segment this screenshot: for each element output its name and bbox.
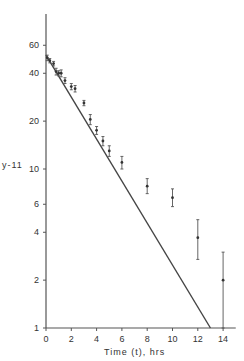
y-tick-label: 40 xyxy=(29,68,39,78)
data-point xyxy=(95,127,98,135)
x-tick-label: 14 xyxy=(218,334,228,344)
data-point xyxy=(222,252,225,328)
data-point xyxy=(101,137,104,146)
data-point xyxy=(146,179,149,194)
fit-line xyxy=(46,55,210,328)
x-tick-label: 2 xyxy=(69,334,74,344)
point-marker xyxy=(52,62,55,65)
point-marker xyxy=(70,85,73,88)
axes xyxy=(46,14,236,328)
data-point xyxy=(63,78,66,84)
point-marker xyxy=(64,79,67,82)
semi-log-chart: 02468101214124610204060 y-11 Time (t), h… xyxy=(0,0,244,361)
x-tick-label: 10 xyxy=(167,334,177,344)
point-marker xyxy=(146,185,149,188)
point-marker xyxy=(95,129,98,132)
y-tick-label: 1 xyxy=(34,323,39,333)
data-point xyxy=(70,83,73,89)
y-tick-label: 60 xyxy=(29,40,39,50)
y-tick-label: 10 xyxy=(29,164,39,174)
y-tick-label: 4 xyxy=(34,227,39,237)
x-tick-label: 8 xyxy=(145,334,150,344)
point-marker xyxy=(46,56,49,59)
data-point xyxy=(89,115,92,125)
point-marker xyxy=(222,279,225,282)
point-marker xyxy=(57,72,60,75)
y-tick-label: 2 xyxy=(34,275,39,285)
data-point xyxy=(82,100,85,105)
y-axis-label: y-11 xyxy=(2,160,23,170)
point-marker xyxy=(121,161,124,164)
point-marker xyxy=(83,102,86,105)
point-marker xyxy=(89,118,92,121)
data-point xyxy=(171,189,174,207)
point-marker xyxy=(196,236,199,239)
x-tick-label: 6 xyxy=(119,334,124,344)
point-marker xyxy=(48,59,51,62)
data-point xyxy=(74,86,77,92)
point-marker xyxy=(108,149,111,152)
y-tick-label: 6 xyxy=(34,199,39,209)
point-marker xyxy=(102,140,105,143)
data-points xyxy=(46,55,225,328)
x-tick-label: 4 xyxy=(94,334,99,344)
point-marker xyxy=(55,70,58,73)
x-axis-label: Time (t), hrs xyxy=(104,347,165,357)
fitted-line xyxy=(46,55,210,328)
point-marker xyxy=(60,72,63,75)
x-tick-label: 12 xyxy=(193,334,203,344)
point-marker xyxy=(74,87,77,90)
data-point xyxy=(120,156,123,169)
x-tick-label: 0 xyxy=(43,334,48,344)
data-point xyxy=(196,220,199,260)
data-point xyxy=(108,146,111,157)
point-marker xyxy=(171,196,174,199)
y-tick-label: 20 xyxy=(29,116,39,126)
